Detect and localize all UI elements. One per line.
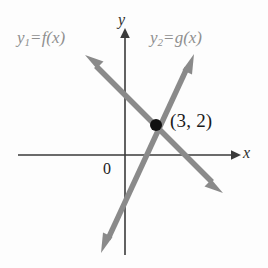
- x-axis-arrowhead-icon: [231, 150, 241, 160]
- function-label-f-variable: y: [17, 28, 25, 47]
- function-label-g-expression: g(x): [175, 28, 202, 47]
- intersection-point-label: (3, 2): [170, 111, 212, 130]
- function-label-f-equals: =: [30, 28, 42, 47]
- y-axis-label: y: [118, 12, 125, 28]
- y-axis: [120, 28, 130, 255]
- x-axis-label: x: [243, 145, 250, 161]
- function-label-f-expression: f(x): [42, 28, 66, 47]
- origin-label: 0: [103, 161, 111, 177]
- graph-figure: y1=f(x) y2=g(x) y x 0 (3, 2): [0, 0, 268, 268]
- function-line-f-arrowhead-upper-left-icon: [85, 55, 104, 69]
- function-line-f-arrowhead-lower-right-icon: [205, 180, 224, 194]
- function-label-g-variable: y: [150, 28, 158, 47]
- x-axis: [18, 150, 241, 160]
- function-label-g-equals: =: [163, 28, 175, 47]
- intersection-point-dot: [150, 119, 162, 131]
- function-label-g: y2=g(x): [150, 29, 202, 48]
- function-label-f: y1=f(x): [17, 29, 65, 48]
- y-axis-arrowhead-icon: [120, 28, 130, 38]
